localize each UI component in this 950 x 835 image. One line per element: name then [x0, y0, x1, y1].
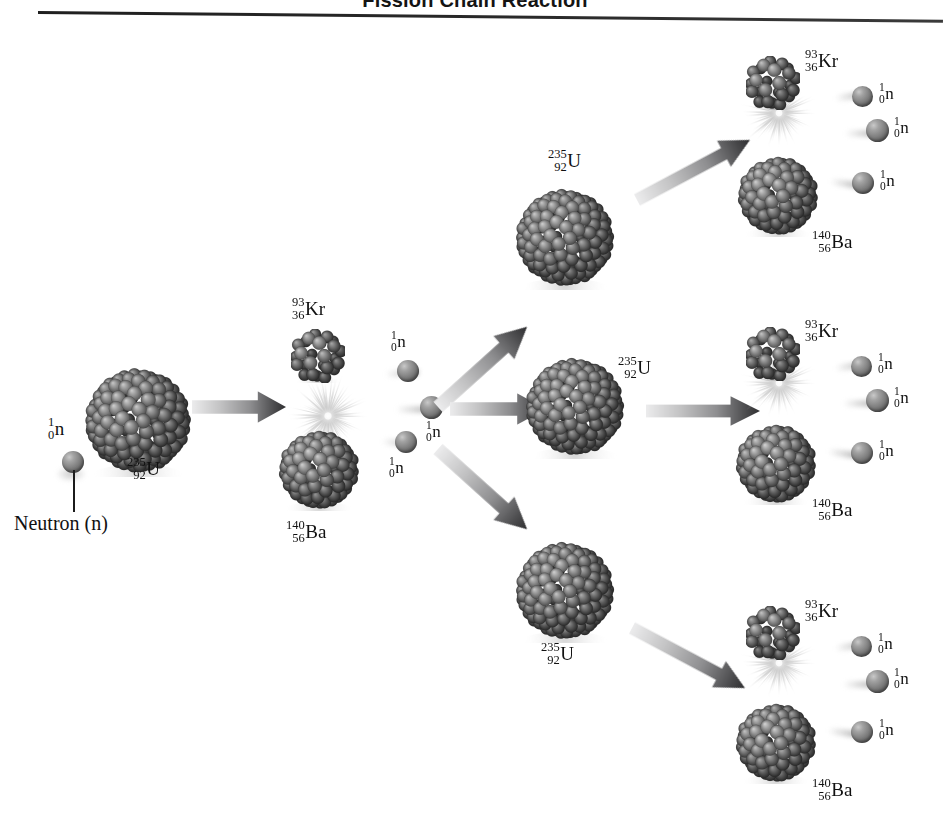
nucleus-kr93-gen3-middle [746, 327, 800, 381]
stage3-middle-neutron-2 [866, 389, 889, 412]
stage3-top-neutron-1 [852, 86, 873, 107]
stage1-incoming-neutron-label: 10n [48, 416, 64, 442]
stage1-kr93-label: 9336Kr [292, 296, 325, 322]
stage3-bottom-neutron-label-1: 10n [878, 632, 893, 655]
stage3-middle-neutron-label-2: 10n [894, 386, 909, 409]
stage1-neutron-label-3: 10n [389, 456, 404, 479]
stage3-bottom-neutron-3 [851, 721, 873, 743]
stage3-bottom-neutron-2 [866, 670, 889, 693]
stage3-top-ba140-label: 14056Ba [812, 229, 852, 255]
arrow-gen3-bottom [624, 614, 752, 702]
nucleus-u235-gen2-middle [523, 355, 627, 459]
stage1-ba140-label: 14056Ba [286, 519, 326, 545]
stage3-bottom-neutron-1 [851, 636, 872, 657]
nucleus-kr93-gen3-bottom [746, 606, 800, 660]
nucleus-ba140-gen3-top [737, 155, 819, 237]
stage3-middle-neutron-1 [851, 356, 872, 377]
stage3-top-neutron-2 [866, 119, 889, 142]
neutron-callout-label: Neutron (n) [14, 512, 108, 535]
stage3-middle-kr93-label: 9336Kr [805, 318, 838, 344]
stage3-top-neutron-label-3: 10n [880, 169, 895, 192]
stage2-bottom-u235-label: 23592U [541, 641, 574, 667]
stage1-u235-label: 23592U [127, 456, 160, 482]
neutron-leader-line [73, 470, 75, 512]
nucleus-ba140-gen3-middle [735, 423, 817, 505]
nucleus-u235-gen2-top [513, 186, 617, 290]
fission-chain-reaction-figure: Fission Chain Reaction 10n Neutron (n) 2… [0, 0, 950, 835]
stage3-top-kr93-label: 9336Kr [805, 48, 838, 74]
stage3-bottom-kr93-label: 9336Kr [805, 598, 838, 624]
stage1-neutron-1 [397, 360, 419, 382]
nucleus-kr93-gen1 [291, 329, 345, 383]
nucleus-ba140-gen3-bottom [735, 702, 817, 784]
stage3-bottom-ba140-label: 14056Ba [812, 777, 852, 803]
title-rule [38, 11, 943, 23]
stage3-bottom-neutron-label-3: 10n [879, 718, 894, 741]
nucleus-u235-gen2-bottom [513, 539, 617, 643]
stage3-middle-neutron-label-1: 10n [878, 352, 893, 375]
stage3-middle-neutron-3 [851, 442, 873, 464]
stage3-bottom-neutron-label-2: 10n [894, 667, 909, 690]
arrow-stage1 [192, 390, 286, 424]
stage3-middle-ba140-label: 14056Ba [812, 497, 852, 523]
arrow-branch-bottom [427, 436, 539, 542]
page-title: Fission Chain Reaction [0, 0, 950, 12]
stage1-neutron-label-2: 10n [426, 420, 441, 443]
stage2-middle-u235-label: 23592U [618, 355, 651, 381]
stage1-neutron-label-1: 10n [391, 330, 406, 353]
nucleus-ba140-gen1 [278, 429, 360, 511]
stage3-top-neutron-label-1: 10n [879, 82, 894, 105]
stage1-neutron-3 [395, 431, 417, 453]
stage3-top-neutron-label-2: 10n [894, 116, 909, 139]
stage2-top-u235-label: 23592U [548, 148, 581, 174]
stage3-middle-neutron-label-3: 10n [879, 439, 894, 462]
stage3-top-neutron-3 [852, 172, 874, 194]
nucleus-kr93-gen3-top [746, 56, 800, 110]
